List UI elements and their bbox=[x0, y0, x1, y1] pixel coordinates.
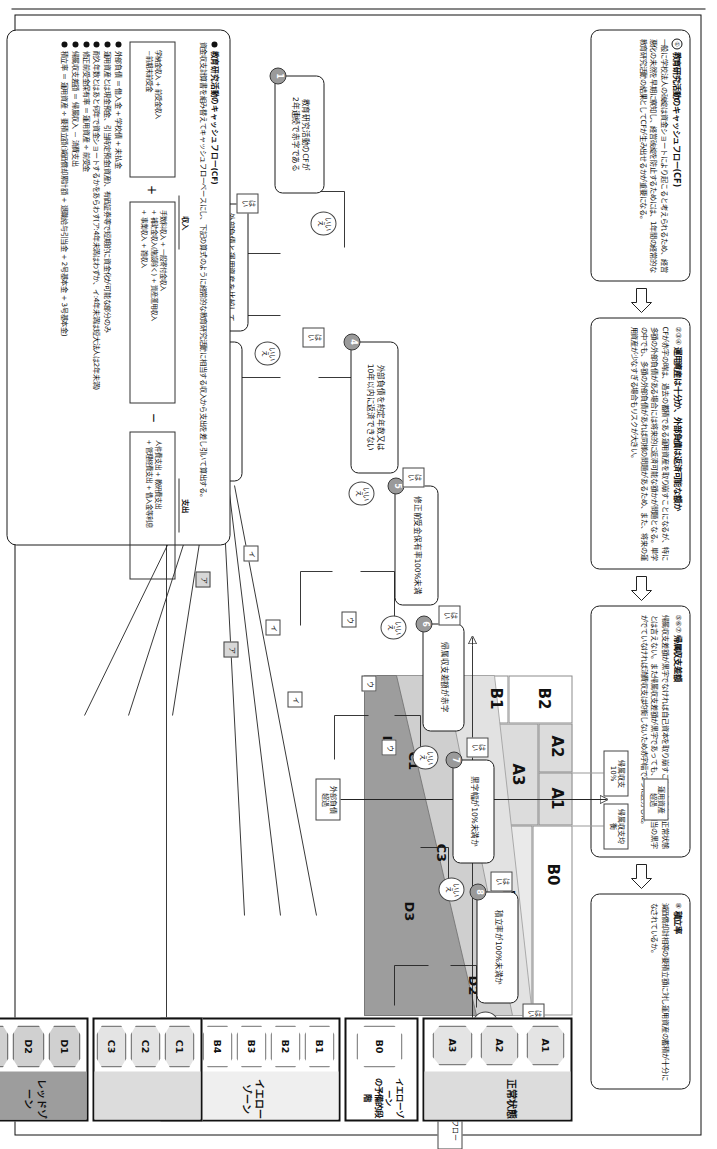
result-node-B0[interactable]: B0 bbox=[356, 1025, 402, 1067]
result-node-B3[interactable]: B3 bbox=[236, 1025, 266, 1067]
definition-item-5: 帰属収支差額 ＝ 帰属収入 － 消費支出 bbox=[68, 41, 79, 533]
result-node-C3[interactable]: C3 bbox=[96, 1025, 126, 1067]
decision-step-5: 5 bbox=[387, 477, 404, 494]
formula-income-cell-2: 手数料収入 + 一般寄付金収入 + 補助金収入(施設除く) + 資産運用収入 +… bbox=[129, 201, 175, 403]
chart-label-B0: B0 bbox=[543, 863, 561, 885]
result-node-D1[interactable]: D1 bbox=[48, 1025, 80, 1067]
note-3-number: ⑤⑥⑦ bbox=[673, 614, 680, 632]
bullet-icon bbox=[211, 41, 217, 47]
zone-red: レッドゾーン D1 D2 D3 bbox=[0, 1017, 88, 1121]
note-box-2: ②③④運用資産は十分か、外部負債は返済可能な額か CFが赤字の時は、過去の蓄積で… bbox=[590, 317, 690, 569]
branch-token-b-2: イ bbox=[265, 619, 280, 635]
branch-token-b-3: イ bbox=[287, 691, 302, 707]
note-4-number: ⑧ bbox=[673, 902, 680, 908]
gridline-label-balance: 帰属収支均衡 bbox=[603, 803, 628, 849]
branch-token-c-2: ウ bbox=[361, 675, 376, 691]
formula-minus-operator: － bbox=[146, 410, 161, 424]
branch-yes-5: はい bbox=[438, 605, 460, 625]
page-frame: ①教育研究活動のキャッシュフロー(CF) 一般に学校法人の破綻は資金ショートによ… bbox=[14, 14, 701, 1135]
result-node-C2[interactable]: C2 bbox=[130, 1025, 160, 1067]
zone-yellow-pre-label: イエローゾーン の予備的段階 bbox=[362, 1075, 404, 1119]
branch-no-5: いいえ bbox=[380, 615, 406, 639]
bullet-icon bbox=[72, 41, 78, 47]
formula-expense-group: 支出 人件費支出 + 教研費支出 + 管理経費支出 + 借入金等利息 bbox=[129, 431, 191, 579]
zone-yellow-label: イエローゾーン bbox=[239, 1077, 264, 1119]
chart-label-C3: C3 bbox=[433, 843, 448, 862]
flow-arrow-3 bbox=[632, 863, 652, 889]
chart-label-A3: A3 bbox=[508, 763, 526, 785]
definition-text-6: 積立率 ＝ 運用資産 ÷ 要積立額(減価償却累計額 + 退職給与引当金 + 2号… bbox=[59, 50, 68, 336]
zone-yellow-c-fill bbox=[94, 1071, 200, 1119]
bullet-icon bbox=[104, 41, 110, 47]
definition-item-4: 修正前受金保有率 ＝ 運用資産 ÷ 前受金 bbox=[79, 41, 90, 533]
branch-yes-6: はい bbox=[466, 737, 488, 757]
result-node-D2[interactable]: D2 bbox=[12, 1025, 44, 1067]
zone-normal-fill bbox=[424, 1071, 570, 1119]
chart-label-A1: A1 bbox=[547, 787, 565, 809]
note-box-1: ①教育研究活動のキャッシュフロー(CF) 一般に学校法人の破綻は資金ショートによ… bbox=[590, 29, 690, 281]
note-box-4: ⑧積立率 減価償却計相等の要積立額に対し運用資産の蓄積が十分になされているか。 bbox=[590, 893, 690, 1089]
note-3-title: ⑤⑥⑦帰属収支差額 bbox=[672, 614, 682, 848]
decision-node-7[interactable]: 黒字幅が10%未満か bbox=[452, 759, 494, 863]
branch-no-1: いいえ bbox=[310, 211, 336, 235]
decision-node-1[interactable]: 教育研究活動のCFが 2年連続で赤字である bbox=[274, 75, 324, 193]
decision-node-4[interactable]: 外部負債を約定年数又は 10年以内に返済できない bbox=[350, 341, 398, 473]
zone-red-label: レッドゾーン bbox=[21, 1077, 46, 1119]
note-4-title: ⑧積立率 bbox=[672, 902, 682, 1080]
chart-label-B2: B2 bbox=[534, 687, 552, 709]
result-node-B4[interactable]: B4 bbox=[202, 1025, 232, 1067]
result-node-A3[interactable]: A3 bbox=[432, 1025, 472, 1065]
formula-plus-operator: ＋ bbox=[144, 182, 159, 196]
note-2-title-text: 運用資産は十分か、外部負債は返済可能な額か bbox=[672, 346, 682, 510]
definition-text-2: 運用資産とは現金預金、引当特定預金(資産)、有価証券等で短期的に資金化が可能な部… bbox=[102, 50, 111, 332]
result-node-A1[interactable]: A1 bbox=[526, 1025, 564, 1065]
zone-yellow-c: C1 C2 C3 bbox=[92, 1017, 202, 1121]
formula-heading-text: 教育研究活動のキャッシュフロー(CF) bbox=[209, 50, 218, 184]
formula-expense-cell: 人件費支出 + 教研費支出 + 管理経費支出 + 借入金等利息 bbox=[129, 431, 175, 579]
decision-node-5[interactable]: 修正前受金保有率100%未満 bbox=[394, 485, 438, 605]
branch-no-4: いいえ bbox=[348, 481, 374, 505]
formula-heading: 教育研究活動のキャッシュフロー(CF) bbox=[209, 41, 220, 533]
branch-yes-4: はい bbox=[402, 467, 424, 487]
branch-token-a-2: ア bbox=[195, 571, 210, 587]
result-node-D3[interactable]: D3 bbox=[0, 1025, 8, 1067]
zone-yellow-pre: イエローゾーン の予備的段階 B0 bbox=[344, 1017, 418, 1121]
branch-no-6: いいえ bbox=[412, 745, 438, 769]
branch-yes-2: はい bbox=[302, 327, 324, 347]
decision-step-7: 7 bbox=[445, 751, 462, 768]
definition-text-5: 帰属収支差額 ＝ 帰属収入 － 消費支出 bbox=[70, 50, 79, 166]
flow-arrow-2 bbox=[632, 575, 652, 601]
note-1-body: 一般に学校法人の破綻は資金ショートにより起こると考えられるため、経営悪化の未然を… bbox=[637, 38, 668, 272]
decision-node-8[interactable]: 積立率が100%未満か bbox=[476, 891, 518, 1003]
formula-income-header: 収入 bbox=[178, 195, 191, 249]
formula-expense-header: 支出 bbox=[178, 478, 191, 532]
chart-label-A2: A2 bbox=[547, 735, 565, 757]
note-4-title-text: 積立率 bbox=[672, 910, 682, 933]
formula-income-cell-1: 学納金収入 + 前受金収入 －前期末前受金 bbox=[129, 41, 175, 177]
note-1-title: ①教育研究活動のキャッシュフロー(CF) bbox=[671, 38, 682, 272]
formula-definitions-box: 教育研究活動のキャッシュフロー(CF) 資金収支計算書を組み替えてキャッシュフロ… bbox=[6, 29, 230, 545]
result-node-C1b[interactable]: C1 bbox=[164, 1025, 194, 1067]
branch-token-c-1: ウ bbox=[341, 611, 356, 627]
note-3-title-text: 帰属収支差額 bbox=[672, 634, 682, 681]
note-2-title: ②③④運用資産は十分か、外部負債は返済可能な額か bbox=[672, 326, 682, 560]
flow-arrow-1 bbox=[632, 287, 652, 313]
result-node-B1[interactable]: B1 bbox=[304, 1025, 334, 1067]
y-axis-label-top: 運用資産超過 bbox=[643, 778, 668, 820]
branch-yes-7: はい bbox=[490, 871, 512, 891]
chart-cell-B0 bbox=[532, 825, 572, 1015]
zone-normal-label: 正常状態 bbox=[504, 1077, 517, 1119]
decision-step-1: 1 bbox=[269, 67, 286, 84]
branch-token-c-3: ウ bbox=[381, 739, 396, 755]
note-1-title-text: 教育研究活動のキャッシュフロー(CF) bbox=[671, 51, 681, 187]
zone-normal: 正常状態 A1 A2 A3 bbox=[422, 1017, 572, 1121]
decision-step-6: 6 bbox=[415, 615, 432, 632]
formula-income-group: 収入 学納金収入 + 前受金収入 －前期末前受金 ＋ 手数料収入 + 一般寄付金… bbox=[129, 41, 191, 403]
definition-item-3: 耐久年数とはあと何年で資金ショートするかをあらわす(ア:4年未満はわずか、イ:4… bbox=[90, 41, 101, 533]
result-node-B2[interactable]: B2 bbox=[270, 1025, 300, 1067]
note-4-body: 減価償却計相等の要積立額に対し運用資産の蓄積が十分になされているか。 bbox=[648, 902, 668, 1080]
decision-node-6[interactable]: 帰属収支差額が赤字 bbox=[422, 623, 464, 731]
gridline-label-10pct: 帰属収支10% bbox=[603, 750, 628, 796]
bullet-icon bbox=[115, 41, 121, 47]
result-node-A2[interactable]: A2 bbox=[480, 1025, 518, 1065]
